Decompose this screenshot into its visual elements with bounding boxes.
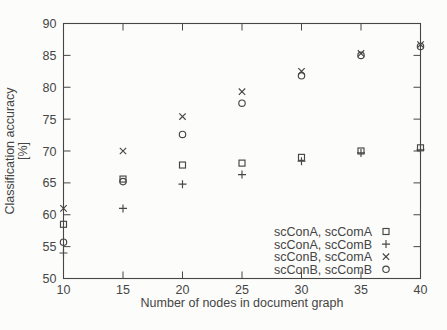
data-point-plus bbox=[60, 249, 68, 257]
y-tick-label: 50 bbox=[43, 272, 57, 286]
data-point-square bbox=[239, 160, 245, 166]
y-axis-title-line1: Classification accuracy bbox=[3, 87, 17, 215]
x-tick-label: 40 bbox=[414, 283, 428, 297]
y-tick-label: 60 bbox=[43, 208, 57, 222]
data-point-circle bbox=[298, 73, 304, 79]
data-point-cross bbox=[239, 89, 245, 95]
x-tick-label: 10 bbox=[57, 283, 71, 297]
legend: scConA, scComAscConA, scComBscConB, scCo… bbox=[274, 225, 390, 277]
y-tick-label: 80 bbox=[43, 81, 57, 95]
x-axis-title: Number of nodes in document graph bbox=[141, 296, 344, 310]
data-point-square bbox=[180, 162, 186, 168]
x-tick-label: 20 bbox=[176, 283, 190, 297]
data-point-circle bbox=[383, 266, 389, 272]
data-point-plus bbox=[119, 204, 127, 212]
y-tick-label: 75 bbox=[43, 113, 57, 127]
data-point-square bbox=[383, 229, 389, 235]
y-tick-label: 85 bbox=[43, 49, 57, 63]
classification-accuracy-chart: 10152025303540505560657075808590 scConA,… bbox=[0, 0, 447, 330]
y-tick-label: 90 bbox=[43, 17, 57, 31]
data-point-cross bbox=[120, 148, 126, 154]
scatter-plot-figure: 10152025303540505560657075808590 scConA,… bbox=[0, 0, 447, 330]
x-tick-label: 25 bbox=[235, 283, 249, 297]
data-point-cross bbox=[179, 113, 185, 119]
y-tick-label: 70 bbox=[43, 145, 57, 159]
legend-label: scConB, scComB bbox=[274, 263, 372, 277]
data-point-plus bbox=[238, 171, 246, 179]
data-point-cross bbox=[383, 254, 389, 260]
y-axis-title-line2: [%] bbox=[16, 142, 30, 160]
x-tick-label: 35 bbox=[354, 283, 368, 297]
x-tick-label: 30 bbox=[295, 283, 309, 297]
data-point-circle bbox=[239, 100, 245, 106]
data-point-plus bbox=[382, 240, 390, 248]
data-point-circle bbox=[179, 131, 185, 137]
x-tick-label: 15 bbox=[116, 283, 130, 297]
y-tick-label: 55 bbox=[43, 240, 57, 254]
data-point-plus bbox=[179, 180, 187, 188]
y-tick-label: 65 bbox=[43, 176, 57, 190]
